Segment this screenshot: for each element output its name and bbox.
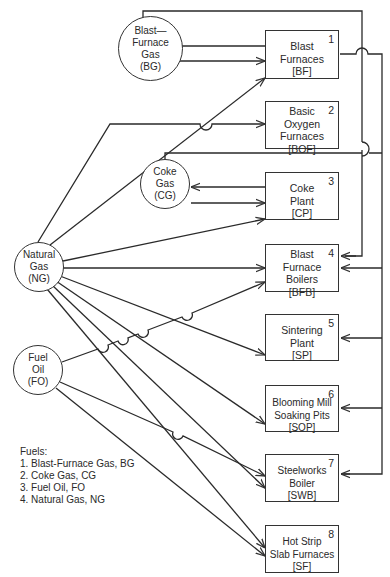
unit-label: [BFB] [266, 286, 338, 299]
unit-basic-oxygen-furnaces: 2 Basic Oxygen Furnaces [BOF] [265, 101, 339, 149]
node-label: Gas [30, 261, 48, 273]
unit-blooming-mill-soaking-pits: 6 Blooming Mill Soaking Pits [SOP] [265, 385, 339, 432]
legend-item: 4. Natural Gas, NG [20, 494, 135, 506]
legend-item: 1. Blast-Furnace Gas, BG [20, 458, 135, 470]
legend-item: 3. Fuel Oil, FO [20, 482, 135, 494]
fuels-legend: Fuels: 1. Blast-Furnace Gas, BG 2. Coke … [20, 446, 135, 506]
node-label: Oil [32, 364, 44, 376]
node-label: Gas [141, 49, 159, 61]
node-label: (BG) [140, 61, 161, 73]
unit-number: 1 [328, 33, 334, 46]
unit-blast-furnaces: 1 Blast Furnaces [BF] [265, 30, 339, 79]
unit-label: [BF] [266, 65, 338, 78]
unit-number: 2 [328, 104, 334, 117]
node-label: Coke [153, 166, 176, 178]
node-label: (CG) [154, 190, 176, 202]
fuel-node-natural-gas: Natural Gas (NG) [14, 242, 64, 292]
unit-sintering-plant: 5 Sintering Plant [SP] [265, 314, 339, 361]
unit-label: Slab Furnaces [266, 549, 338, 562]
unit-label: Oxygen [266, 118, 338, 131]
node-label: Natural [23, 249, 55, 261]
fuel-node-coke-gas: Coke Gas (CG) [140, 159, 190, 209]
unit-label: Boiler [266, 478, 338, 491]
unit-label: Furnace [266, 261, 338, 274]
node-label: (FO) [28, 376, 49, 388]
unit-label: [CP] [266, 207, 338, 220]
unit-label: [SWB] [266, 490, 338, 503]
legend-title: Fuels: [20, 446, 135, 458]
node-label: Blast— [134, 25, 166, 37]
unit-label: Boilers [266, 273, 338, 286]
unit-number: 3 [328, 175, 334, 188]
unit-number: 5 [328, 317, 334, 330]
fuel-node-fuel-oil: Fuel Oil (FO) [13, 345, 63, 395]
unit-label: Furnaces [266, 53, 338, 66]
unit-label: [BOF] [266, 143, 338, 156]
unit-label: Plant [266, 337, 338, 350]
node-label: Fuel [28, 352, 47, 364]
node-label: Furnace [132, 37, 169, 49]
unit-label: Soaking Pits [266, 410, 338, 423]
node-label: Gas [156, 178, 174, 190]
unit-label: Plant [266, 195, 338, 208]
unit-label: [SOP] [266, 422, 338, 435]
unit-steelworks-boiler: 7 Steelworks Boiler [SWB] [265, 454, 339, 502]
unit-label: Furnaces [266, 130, 338, 143]
node-label: (NG) [28, 273, 50, 285]
unit-coke-plant: 3 Coke Plant [CP] [265, 172, 339, 220]
fuel-node-blast-furnace-gas: Blast— Furnace Gas (BG) [118, 16, 183, 81]
unit-hot-strip-slab-furnaces: 8 Hot Strip Slab Furnaces [SF] [265, 525, 339, 573]
legend-item: 2. Coke Gas, CG [20, 470, 135, 482]
unit-number: 7 [328, 457, 334, 470]
unit-label: [SP] [266, 349, 338, 362]
unit-label: [SF] [266, 561, 338, 574]
unit-number: 4 [328, 247, 334, 260]
unit-number: 6 [328, 388, 334, 401]
unit-blast-furnace-boilers: 4 Blast Furnace Boilers [BFB] [265, 244, 339, 292]
unit-number: 8 [328, 528, 334, 541]
